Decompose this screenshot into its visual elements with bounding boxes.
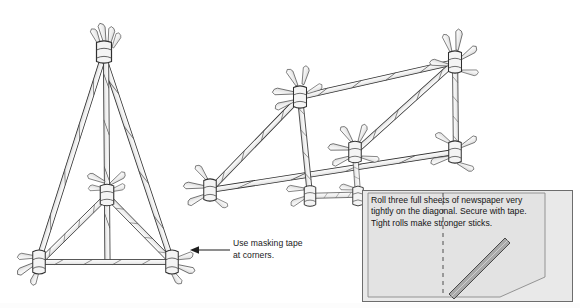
bottom-edge-band	[0, 303, 580, 308]
inset-instruction-text: Roll three full sheets of newspaper very…	[371, 195, 571, 229]
inset-line-2: tightly on the diagonal. Secure with tap…	[371, 206, 571, 217]
inset-line-3: Tight rolls make stronger sticks.	[371, 218, 571, 229]
inset-diagram-layer	[0, 0, 580, 308]
illustration-canvas: Use masking tape at corners. Roll three …	[0, 0, 580, 308]
inset-line-1: Roll three full sheets of newspaper very	[371, 195, 571, 206]
